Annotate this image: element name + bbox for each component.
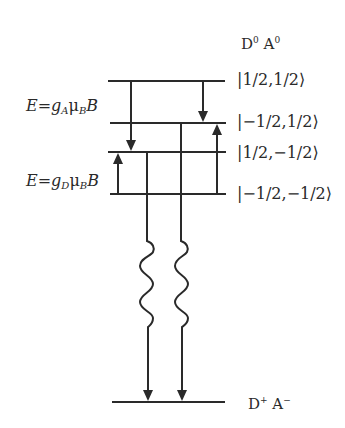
ket-label-1: |1/2,1/2⟩ [237,72,305,88]
acceptor-charge: − [283,395,291,405]
g-factor-symbol: g [51,171,61,190]
acceptor-zeeman-label: E=gAμBB [26,98,98,116]
ket-label-3: |1/2,−1/2⟩ [237,145,319,161]
magneton-symbol: μ [69,171,79,190]
donor-charge: + [260,395,268,405]
down-arrow-left [126,81,136,151]
ket-label-2: |−1/2,1/2⟩ [237,114,319,130]
recombination-arrow-left [140,152,154,401]
initial-state-label: D0 A0 [241,36,280,52]
down-arrow-right [198,81,208,122]
ket-label-4: |−1/2,−1/2⟩ [237,186,332,202]
energy-symbol: E [26,171,38,190]
up-arrow-right [212,124,222,194]
up-arrow-left [113,153,123,194]
donor-symbol: D [248,395,260,413]
energy-symbol: E [26,96,38,115]
magneton-symbol: μ [69,96,79,115]
donor-symbol: D [241,35,253,53]
energy-level-diagram: D0 A0 |1/2,1/2⟩ |−1/2,1/2⟩ |1/2,−1/2⟩ |−… [0,0,345,428]
acceptor-symbol: A [264,35,275,53]
equals-sign: = [38,96,51,115]
g-factor-symbol: g [51,96,61,115]
g-factor-subscript: A [61,105,68,116]
acceptor-charge: 0 [274,35,280,45]
final-state-label: D+ A− [248,396,291,412]
diagram-graphics [0,0,345,428]
donor-charge: 0 [253,35,259,45]
equals-sign: = [38,171,51,190]
acceptor-symbol: A [272,395,283,413]
field-symbol: B [87,171,99,190]
donor-zeeman-label: E=gDμBB [26,173,99,191]
recombination-arrow-right [175,123,188,401]
field-symbol: B [86,96,98,115]
